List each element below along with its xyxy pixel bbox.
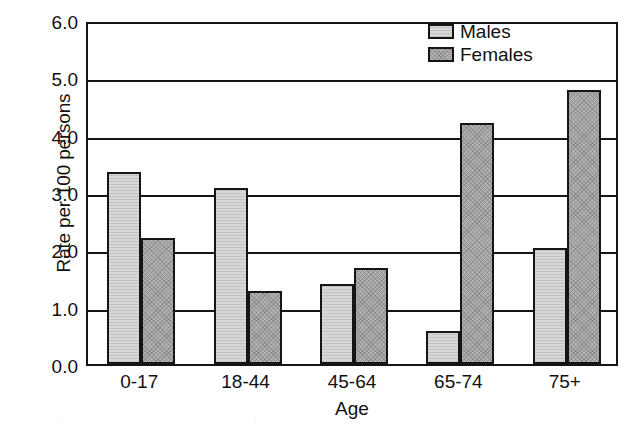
x-axis-tick-label: 65-74 bbox=[434, 372, 483, 391]
x-axis-tick-label: 75+ bbox=[549, 372, 581, 391]
bar-males bbox=[320, 284, 354, 364]
bar-females bbox=[354, 268, 388, 364]
bar-females bbox=[567, 90, 601, 364]
scan-artifact bbox=[0, 416, 300, 428]
plot-area bbox=[86, 22, 618, 366]
bar-males bbox=[426, 331, 460, 364]
bar-males bbox=[214, 188, 248, 364]
y-axis-tick-label: 2.0 bbox=[32, 242, 78, 261]
x-axis-tick-label: 45-64 bbox=[328, 372, 377, 391]
x-axis-tick-label: 18-44 bbox=[221, 372, 270, 391]
y-axis-tick-label: 1.0 bbox=[32, 299, 78, 318]
bar-males bbox=[533, 248, 567, 364]
legend-swatch-icon bbox=[428, 24, 454, 39]
y-axis-tick-label: 3.0 bbox=[32, 185, 78, 204]
y-axis-tick-label: 6.0 bbox=[32, 13, 78, 32]
legend-item: Males bbox=[428, 20, 533, 43]
bar-females bbox=[248, 291, 282, 364]
y-axis-tick-label: 0.0 bbox=[32, 357, 78, 376]
y-axis-tick-labels: 0.01.02.03.04.05.06.0 bbox=[30, 0, 78, 431]
legend-label: Males bbox=[460, 22, 511, 41]
bar-series-container bbox=[88, 24, 616, 364]
legend-swatch-icon bbox=[428, 47, 454, 62]
x-axis-tick-label: 0-17 bbox=[120, 372, 158, 391]
y-axis-tick-label: 4.0 bbox=[32, 127, 78, 146]
bar-males bbox=[107, 172, 141, 364]
bar-chart-figure: Rate per 100 persons 0.01.02.03.04.05.06… bbox=[0, 0, 638, 431]
legend-item: Females bbox=[428, 43, 533, 66]
legend-label: Females bbox=[460, 45, 533, 64]
chart-legend: MalesFemales bbox=[428, 20, 533, 66]
bar-females bbox=[460, 123, 494, 364]
bar-females bbox=[141, 238, 175, 364]
y-axis-tick-label: 5.0 bbox=[32, 70, 78, 89]
